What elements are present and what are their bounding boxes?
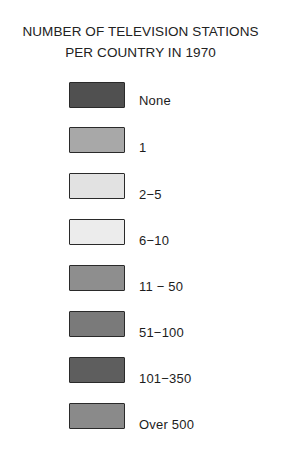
legend-item-6-10: 6−10 (69, 219, 269, 249)
legend-swatch (69, 127, 125, 153)
legend-title-line-1: NUMBER OF TELEVISION STATIONS (0, 24, 281, 40)
legend-item-none: None (69, 82, 269, 112)
legend-label: 51−100 (139, 325, 184, 340)
legend-swatch (69, 82, 125, 108)
legend-item-over-500: Over 500 (69, 403, 269, 433)
legend-label: 6−10 (139, 233, 169, 248)
legend-label: None (139, 93, 171, 108)
legend-swatch (69, 357, 125, 383)
legend-label: Over 500 (139, 417, 194, 432)
legend-item-11-50: 11 − 50 (69, 265, 269, 295)
legend-swatch (69, 403, 125, 429)
legend-item-101-350: 101−350 (69, 357, 269, 387)
legend-item-2-5: 2−5 (69, 173, 269, 203)
legend-title-line-2: PER COUNTRY IN 1970 (0, 45, 281, 61)
legend-label: 1 (139, 140, 146, 155)
legend-item-1: 1 (69, 127, 269, 157)
legend-swatch (69, 173, 125, 199)
legend-label: 11 − 50 (139, 279, 183, 294)
legend-swatch (69, 265, 125, 291)
legend-swatch (69, 219, 125, 245)
legend-item-51-100: 51−100 (69, 311, 269, 341)
legend-label: 101−350 (139, 371, 191, 386)
legend-label: 2−5 (139, 187, 162, 202)
legend-swatch (69, 311, 125, 337)
